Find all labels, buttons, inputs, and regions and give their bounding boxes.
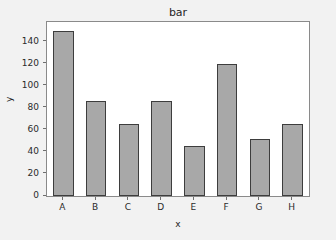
y-tick: 40 bbox=[28, 145, 46, 157]
x-tick: G bbox=[244, 197, 274, 214]
bar-d bbox=[151, 101, 171, 196]
x-tick-label: F bbox=[211, 201, 241, 214]
x-tick-label: C bbox=[113, 201, 143, 214]
x-axis-tick-group: ABCDEFGH bbox=[46, 197, 310, 219]
x-tick-mark bbox=[62, 197, 63, 200]
chart-title: bar bbox=[46, 6, 310, 19]
x-tick: D bbox=[146, 197, 176, 214]
bar-h bbox=[282, 124, 302, 196]
x-tick-mark bbox=[127, 197, 128, 200]
y-tick: 100 bbox=[22, 79, 46, 91]
y-tick: 0 bbox=[33, 189, 46, 201]
x-tick: B bbox=[80, 197, 110, 214]
y-axis-label: y bbox=[4, 97, 15, 102]
bar-c bbox=[119, 124, 139, 196]
y-tick: 80 bbox=[28, 101, 46, 113]
x-tick: F bbox=[211, 197, 241, 214]
x-tick-mark bbox=[291, 197, 292, 200]
x-tick-label: A bbox=[47, 201, 77, 214]
bars-layer bbox=[47, 22, 309, 196]
x-tick-mark bbox=[258, 197, 259, 200]
x-tick-mark bbox=[95, 197, 96, 200]
y-tick-label: 80 bbox=[28, 101, 43, 113]
y-tick: 140 bbox=[22, 35, 46, 47]
x-tick-label: G bbox=[244, 201, 274, 214]
y-tick-label: 40 bbox=[28, 145, 43, 157]
x-tick: A bbox=[47, 197, 77, 214]
plot-area bbox=[46, 21, 310, 197]
y-tick: 120 bbox=[22, 57, 46, 69]
x-tick-label: D bbox=[146, 201, 176, 214]
bar-f bbox=[217, 64, 237, 196]
x-tick-label: B bbox=[80, 201, 110, 214]
y-tick: 60 bbox=[28, 123, 46, 135]
y-tick-label: 20 bbox=[28, 167, 43, 179]
bar-b bbox=[86, 101, 106, 196]
bar-e bbox=[184, 146, 204, 196]
y-tick: 20 bbox=[28, 167, 46, 179]
x-tick-mark bbox=[226, 197, 227, 200]
y-tick-label: 140 bbox=[22, 35, 43, 47]
x-tick: E bbox=[178, 197, 208, 214]
y-tick-label: 60 bbox=[28, 123, 43, 135]
bar-g bbox=[250, 139, 270, 196]
x-tick-mark bbox=[193, 197, 194, 200]
bar-chart-figure: bar 020406080100120140 ABCDEFGH x y bbox=[0, 0, 336, 240]
x-tick: H bbox=[277, 197, 307, 214]
y-tick-label: 100 bbox=[22, 79, 43, 91]
x-tick-label: H bbox=[277, 201, 307, 214]
y-tick-label: 120 bbox=[22, 57, 43, 69]
x-tick-mark bbox=[160, 197, 161, 200]
y-axis-tick-group: 020406080100120140 bbox=[0, 21, 46, 197]
y-tick-label: 0 bbox=[33, 189, 43, 201]
x-tick: C bbox=[113, 197, 143, 214]
x-tick-label: E bbox=[178, 201, 208, 214]
x-axis-label: x bbox=[46, 219, 310, 230]
bar-a bbox=[53, 31, 73, 196]
